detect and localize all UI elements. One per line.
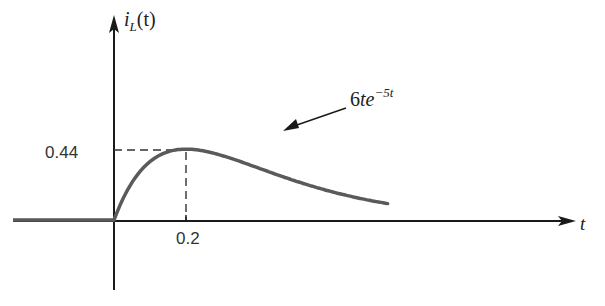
peak-value-label: 0.44 bbox=[45, 143, 78, 162]
x-axis-label: t bbox=[580, 213, 586, 234]
curve-label: 6te−5t bbox=[350, 85, 394, 110]
peak-time-label: 0.2 bbox=[176, 229, 200, 248]
response-curve bbox=[114, 149, 388, 220]
curve-label-pointer bbox=[294, 108, 346, 126]
pointer-arrow-icon bbox=[283, 119, 299, 131]
y-axis-label: iL(t) bbox=[124, 8, 156, 34]
waveform-plot: iL(t) t 0.44 0.2 6te−5t bbox=[0, 0, 605, 306]
